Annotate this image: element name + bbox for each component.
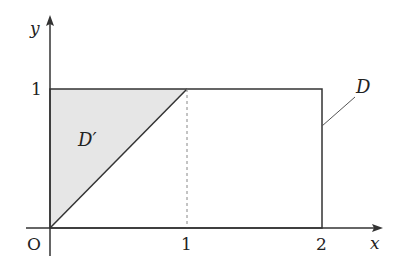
- d-leader-line: [322, 97, 355, 126]
- origin-label: O: [27, 234, 41, 254]
- region-diagram: y x O 1 1 2 D′ D: [0, 0, 405, 271]
- x-axis-label: x: [370, 233, 380, 253]
- y-tick-1: 1: [31, 79, 42, 99]
- x-tick-1: 1: [181, 234, 192, 254]
- x-tick-2: 2: [316, 234, 327, 254]
- region-d-label: D: [355, 76, 371, 97]
- y-axis-label: y: [29, 18, 40, 38]
- region-d-prime-label: D′: [77, 129, 97, 150]
